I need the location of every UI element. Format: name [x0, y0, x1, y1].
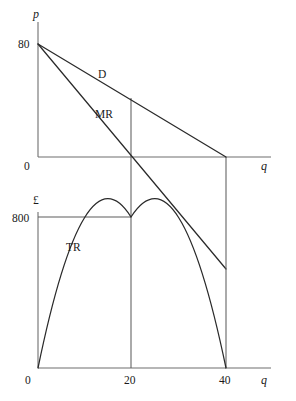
upper-panel: 80 0 p q D MR — [18, 7, 271, 269]
tick-label-zero-lower: 0 — [25, 374, 31, 386]
tick-label-800: 800 — [12, 212, 30, 224]
tick-label-80: 80 — [18, 38, 30, 50]
pound-axis-label: £ — [33, 194, 39, 206]
total-revenue-curve — [38, 199, 226, 368]
tick-label-zero-upper: 0 — [24, 160, 30, 172]
lower-panel: £ 800 0 20 40 q TR — [12, 194, 271, 387]
figure-canvas: 80 0 p q D MR £ 800 0 20 — [0, 0, 296, 401]
p-axis-label: p — [32, 7, 39, 21]
marginal-revenue-curve-label: MR — [95, 108, 113, 120]
q-axis-label-lower: q — [261, 373, 267, 387]
demand-curve-label: D — [98, 68, 106, 80]
economics-figure: 80 0 p q D MR £ 800 0 20 — [0, 0, 296, 401]
tick-label-20: 20 — [124, 374, 136, 386]
tick-label-40: 40 — [219, 374, 231, 386]
total-revenue-curve-label: TR — [66, 241, 81, 253]
q-axis-label-upper: q — [261, 159, 267, 173]
demand-curve — [38, 44, 226, 157]
